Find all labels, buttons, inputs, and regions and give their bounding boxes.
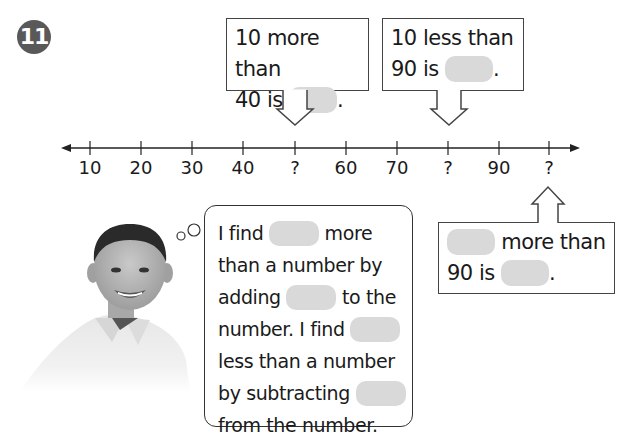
thought-text: by subtracting xyxy=(218,382,350,404)
answer-blank[interactable] xyxy=(356,381,406,406)
number-line xyxy=(61,141,580,155)
answer-blank[interactable] xyxy=(286,285,336,310)
tick-label: 30 xyxy=(172,157,212,178)
tick-label: 90 xyxy=(479,157,519,178)
tick-label: 70 xyxy=(377,157,417,178)
right-arrowhead-icon xyxy=(570,144,580,152)
thought-dot-large-icon xyxy=(188,224,200,236)
thought-line: from the number. xyxy=(218,409,412,437)
answer-blank[interactable] xyxy=(350,317,400,342)
thought-line: less than a number xyxy=(218,345,412,377)
down-arrow-icon xyxy=(431,90,467,125)
thought-line: by subtracting xyxy=(218,377,412,409)
thought-text: to the xyxy=(342,286,396,308)
thought-bubble: I find more than a number by adding to t… xyxy=(204,205,413,427)
thought-dot-small-icon xyxy=(177,232,185,240)
answer-blank[interactable] xyxy=(269,221,319,246)
tick-label: 60 xyxy=(326,157,366,178)
boy-illustration xyxy=(20,224,190,392)
thought-text: adding xyxy=(218,286,281,308)
thought-line: I find more xyxy=(218,217,412,249)
tick-label-unknown: ? xyxy=(275,157,315,178)
thought-text: I find xyxy=(218,222,263,244)
tick-label-unknown: ? xyxy=(428,157,468,178)
thought-text: number. I find xyxy=(218,318,345,340)
tick-label: 10 xyxy=(70,157,110,178)
thought-text: more xyxy=(325,222,373,244)
thought-line: than a number by xyxy=(218,249,412,281)
tick-label: 40 xyxy=(223,157,263,178)
thought-line: adding to the xyxy=(218,281,412,313)
thought-line: number. I find xyxy=(218,313,412,345)
tick-label: 20 xyxy=(121,157,161,178)
left-arrowhead-icon xyxy=(61,144,71,152)
up-arrow-icon xyxy=(532,187,564,223)
tick-label-unknown: ? xyxy=(529,157,569,178)
down-arrow-icon xyxy=(277,90,313,125)
